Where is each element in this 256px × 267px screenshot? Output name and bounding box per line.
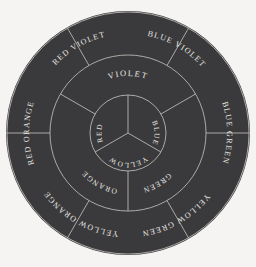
color-wheel-svg: RED BLUE YELLOW VIOLET GREEN ORANGE RED … [0,0,256,267]
color-wheel-diagram: RED BLUE YELLOW VIOLET GREEN ORANGE RED … [0,0,256,267]
label-red: RED [94,122,104,143]
